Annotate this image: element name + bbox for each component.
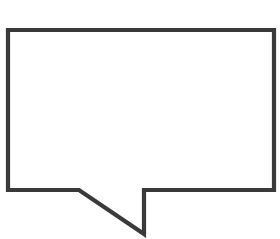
speech-balloon-graphic: Speech balloon outline [0, 0, 280, 239]
balloon-canvas: Speech balloon outline [0, 0, 280, 239]
balloon-background [0, 0, 280, 239]
